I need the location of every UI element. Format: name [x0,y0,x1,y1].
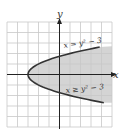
y-axis-label: y [56,8,63,19]
parabola-graph: y x x = y² − 3 x ≥ y² − 3 [0,0,120,139]
graph-figure: y x x = y² − 3 x ≥ y² − 3 [0,0,120,139]
x-axis-label: x [113,69,119,80]
